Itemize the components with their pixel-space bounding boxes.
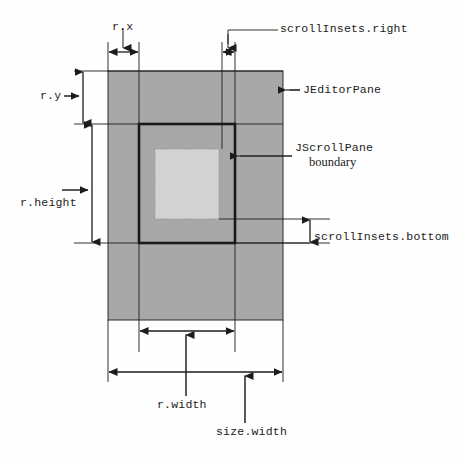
label-jscrollpane-boundary: boundary xyxy=(309,155,356,170)
dimension-r-height xyxy=(62,125,92,242)
label-jscrollpane: JScrollPane xyxy=(295,141,373,154)
diagram-canvas: r.x scrollInsets.right r.y JEditorPane J… xyxy=(0,0,465,460)
label-scroll-insets-bottom: scrollInsets.bottom xyxy=(314,230,449,243)
label-r-x: r.x xyxy=(112,20,133,33)
dimension-r-width xyxy=(140,331,234,396)
label-r-y: r.y xyxy=(40,89,61,102)
dimension-r-y xyxy=(64,72,83,123)
label-r-width: r.width xyxy=(157,398,207,411)
label-size-width: size.width xyxy=(216,425,287,438)
label-scroll-insets-right: scrollInsets.right xyxy=(280,22,408,35)
label-r-height: r.height xyxy=(20,196,77,209)
label-jeditorpane: JEditorPane xyxy=(303,83,381,96)
dimension-scroll-insets-right xyxy=(223,34,234,52)
viewport-rect xyxy=(155,149,219,219)
